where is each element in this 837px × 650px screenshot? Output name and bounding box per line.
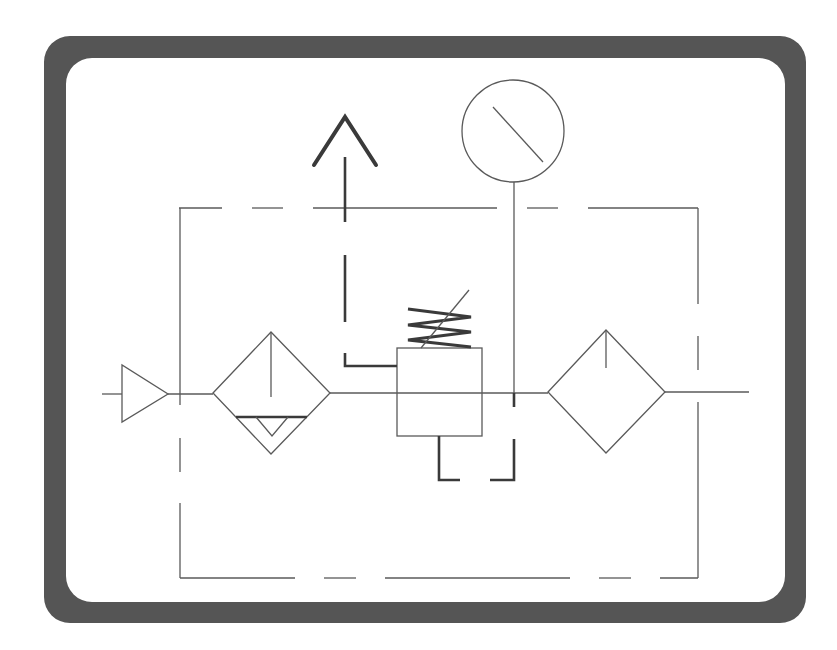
frame-border bbox=[44, 36, 806, 623]
regulator-symbol bbox=[345, 157, 514, 480]
filter-symbol bbox=[213, 332, 330, 454]
regulator-body bbox=[397, 348, 482, 436]
inlet-symbol bbox=[102, 365, 213, 422]
lubricator-symbol bbox=[548, 330, 665, 453]
gauge-dial-icon bbox=[462, 80, 564, 182]
spring-icon bbox=[408, 309, 471, 347]
gauge-needle bbox=[493, 107, 543, 162]
inlet-triangle-icon bbox=[122, 365, 168, 422]
drain-icon bbox=[256, 417, 288, 436]
frl-unit-diagram bbox=[0, 0, 837, 650]
frame bbox=[44, 36, 806, 623]
pressure-gauge bbox=[462, 80, 564, 407]
